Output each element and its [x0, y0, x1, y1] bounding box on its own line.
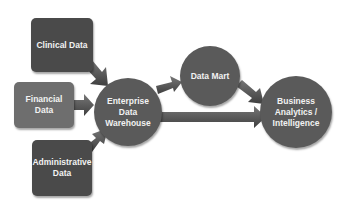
administrative-data-label: Administrative Data — [32, 157, 91, 179]
clinical-data-box: Clinical Data — [31, 18, 93, 72]
arrow-edw-to-bai — [160, 106, 266, 128]
financial-data-box: Financial Data — [14, 82, 74, 128]
financial-data-label: Financial Data — [16, 94, 72, 116]
enterprise-data-warehouse-node: Enterprise Data Warehouse — [94, 78, 162, 146]
arrow-financial-to-edw — [74, 94, 94, 116]
business-analytics-node: Business Analytics / Intelligence — [260, 76, 332, 148]
business-analytics-label: Business Analytics / Intelligence — [273, 96, 320, 129]
administrative-data-box: Administrative Data — [32, 140, 92, 196]
data-flow-diagram: Clinical Data Financial Data Administrat… — [0, 0, 348, 212]
arrow-datamart-to-bai — [236, 80, 264, 104]
arrow-edw-to-datamart — [156, 76, 182, 94]
data-mart-label: Data Mart — [191, 71, 230, 82]
clinical-data-label: Clinical Data — [36, 40, 87, 51]
enterprise-data-warehouse-label: Enterprise Data Warehouse — [105, 96, 151, 129]
data-mart-node: Data Mart — [180, 46, 240, 106]
